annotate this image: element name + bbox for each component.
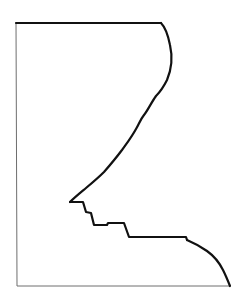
background	[0, 0, 239, 297]
outline-drawing	[0, 0, 239, 297]
